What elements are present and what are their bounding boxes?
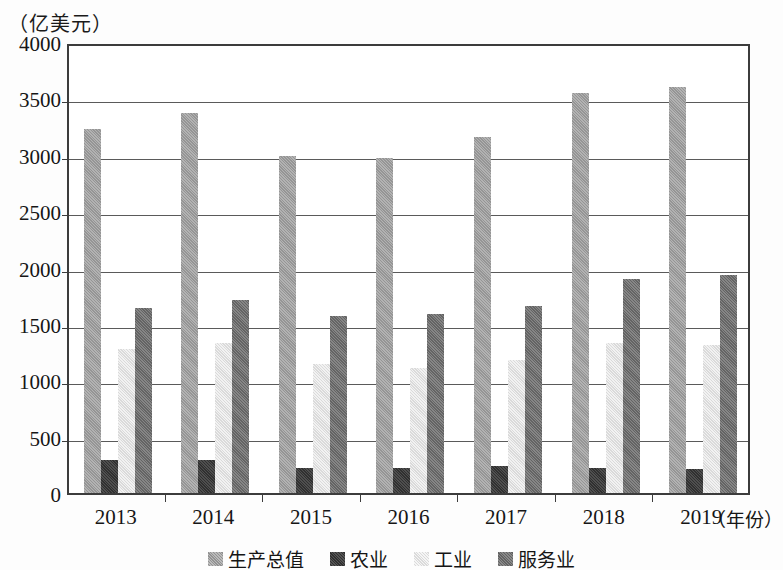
bar[interactable]	[215, 343, 232, 493]
bar[interactable]	[313, 364, 330, 493]
bar[interactable]	[589, 468, 606, 493]
y-tick-label: 0	[0, 483, 61, 508]
bar-group	[69, 46, 167, 493]
y-tick-label: 1000	[0, 370, 61, 395]
legend-swatch-icon	[414, 552, 429, 566]
x-tick-label: 2015	[290, 505, 332, 530]
y-tick-mark	[62, 159, 69, 160]
y-tick-label: 4000	[0, 32, 61, 57]
x-tick-label: 2013	[95, 505, 137, 530]
bar[interactable]	[84, 129, 101, 493]
bar-group	[264, 46, 362, 493]
bar[interactable]	[279, 156, 296, 493]
y-tick-mark	[62, 215, 69, 216]
y-tick-mark	[62, 102, 69, 103]
legend-swatch-icon	[330, 552, 345, 566]
bar[interactable]	[606, 343, 623, 493]
chart-root: （亿美元） 05001000150020002500300035004000 2…	[0, 0, 783, 570]
bar[interactable]	[491, 466, 508, 493]
bar[interactable]	[410, 368, 427, 493]
bar-group	[167, 46, 265, 493]
x-tick-mark	[360, 495, 361, 502]
bar[interactable]	[296, 468, 313, 493]
legend-label: 生产总值	[228, 545, 304, 570]
bar[interactable]	[135, 308, 152, 493]
legend-item[interactable]: 工业	[414, 545, 472, 570]
legend-swatch-icon	[208, 552, 223, 566]
bar[interactable]	[572, 93, 589, 493]
legend-label: 工业	[434, 545, 472, 570]
bar[interactable]	[525, 306, 542, 493]
bar[interactable]	[703, 345, 720, 493]
y-tick-label: 500	[0, 426, 61, 451]
bar[interactable]	[686, 469, 703, 493]
bar[interactable]	[508, 360, 525, 493]
bar[interactable]	[393, 468, 410, 493]
bar[interactable]	[376, 158, 393, 493]
y-tick-label: 3500	[0, 88, 61, 113]
bar[interactable]	[232, 300, 249, 493]
legend-label: 农业	[350, 545, 388, 570]
x-axis-title: （年份）	[707, 505, 783, 532]
x-tick-label: 2017	[485, 505, 527, 530]
legend-item[interactable]: 服务业	[498, 545, 575, 570]
x-tick-mark	[555, 495, 556, 502]
chart-legend: 生产总值农业工业服务业	[0, 545, 783, 570]
legend-label: 服务业	[518, 545, 575, 570]
x-tick-label: 2014	[192, 505, 234, 530]
x-tick-label: 2018	[583, 505, 625, 530]
y-tick-mark	[62, 441, 69, 442]
bar-group	[459, 46, 557, 493]
bar-group	[362, 46, 460, 493]
x-tick-mark	[262, 495, 263, 502]
bar-group	[557, 46, 655, 493]
x-tick-mark	[165, 495, 166, 502]
plot-area	[67, 44, 750, 495]
bar-group	[654, 46, 752, 493]
y-tick-mark	[62, 328, 69, 329]
bar[interactable]	[720, 275, 737, 493]
x-tick-mark	[457, 495, 458, 502]
y-tick-label: 2000	[0, 257, 61, 282]
y-tick-mark	[62, 384, 69, 385]
legend-item[interactable]: 农业	[330, 545, 388, 570]
x-tick-mark	[652, 495, 653, 502]
bar[interactable]	[118, 349, 135, 493]
bar[interactable]	[474, 137, 491, 493]
bar[interactable]	[181, 113, 198, 493]
bar[interactable]	[427, 314, 444, 493]
bar[interactable]	[623, 279, 640, 493]
bar[interactable]	[669, 87, 686, 493]
y-tick-label: 2500	[0, 201, 61, 226]
bar[interactable]	[101, 460, 118, 493]
legend-swatch-icon	[498, 552, 513, 566]
bar[interactable]	[198, 460, 215, 493]
bar[interactable]	[330, 316, 347, 493]
y-tick-label: 1500	[0, 313, 61, 338]
bar-series-layer	[69, 46, 748, 493]
legend-item[interactable]: 生产总值	[208, 545, 304, 570]
y-tick-label: 3000	[0, 144, 61, 169]
x-tick-label: 2016	[388, 505, 430, 530]
y-tick-mark	[62, 272, 69, 273]
